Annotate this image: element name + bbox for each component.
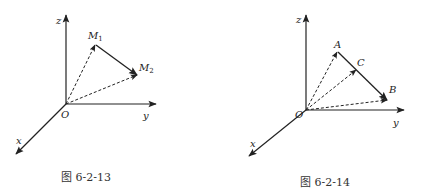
- figure-6-2-13: z y x O M1 M2: [16, 15, 156, 154]
- vector-ob: [306, 100, 387, 110]
- point-m2-label: M2: [138, 62, 154, 75]
- x-label: x: [16, 135, 22, 146]
- y-label: y: [142, 110, 149, 121]
- origin-label: O: [295, 109, 303, 120]
- vector-oa: [306, 52, 337, 110]
- point-c-label: C: [357, 57, 365, 68]
- z-label: z: [55, 15, 62, 26]
- point-a-label: A: [333, 39, 341, 50]
- vector-om1: [66, 45, 95, 104]
- caption-figure-6-2-13: 图 6-2-13: [61, 168, 111, 184]
- z-label: z: [295, 14, 302, 25]
- point-b-label: B: [388, 84, 396, 95]
- diagrams: z y x O M1 M2 z y x O A C B: [0, 0, 421, 196]
- x-axis: [16, 104, 66, 154]
- point-m1-label: M1: [87, 30, 103, 43]
- x-label: x: [250, 138, 256, 149]
- origin-label: O: [61, 109, 69, 120]
- vector-m1m2: [96, 45, 137, 75]
- y-label: y: [392, 117, 399, 128]
- figure-6-2-14: z y x O A C B: [249, 14, 404, 156]
- caption-figure-6-2-14: 图 6-2-14: [300, 173, 350, 189]
- vector-om2: [66, 75, 137, 104]
- vector-oc: [306, 70, 356, 110]
